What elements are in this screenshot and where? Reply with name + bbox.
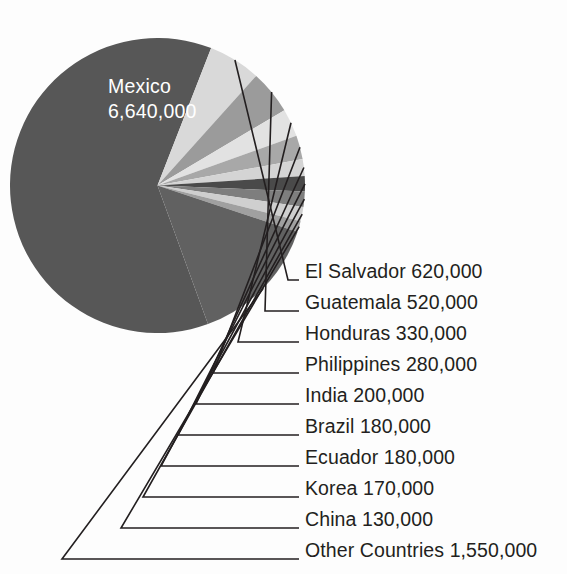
callout-label-brazil: Brazil 180,000 <box>305 417 431 437</box>
slice-label-mexico: Mexico 6,640,000 <box>108 74 197 124</box>
callout-label-guatemala: Guatemala 520,000 <box>305 293 478 313</box>
callout-label-honduras: Honduras 330,000 <box>305 324 467 344</box>
pie-chart-graphic <box>0 0 567 574</box>
callout-label-el-salvador: El Salvador 620,000 <box>305 262 483 282</box>
callout-label-other-countries: Other Countries 1,550,000 <box>305 541 537 561</box>
slice-label-mexico-name: Mexico <box>108 74 197 99</box>
slice-label-mexico-value: 6,640,000 <box>108 99 197 124</box>
callout-label-philippines: Philippines 280,000 <box>305 355 477 375</box>
pie-chart: Mexico 6,640,000 El Salvador 620,000 Gua… <box>0 0 567 574</box>
callout-label-china: China 130,000 <box>305 510 433 530</box>
callout-label-india: India 200,000 <box>305 386 425 406</box>
callout-label-ecuador: Ecuador 180,000 <box>305 448 455 468</box>
callout-label-korea: Korea 170,000 <box>305 479 434 499</box>
